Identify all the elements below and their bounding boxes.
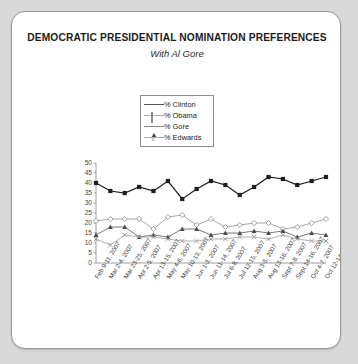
chart-legend: % Clinton % Obama % Gore × % Edwards: [140, 95, 214, 147]
page-subtitle: With Al Gore: [12, 48, 341, 59]
filled-triangle-marker-icon: [144, 121, 164, 132]
series-obama: [93, 212, 328, 231]
svg-text:10: 10: [85, 239, 93, 246]
svg-text:25: 25: [85, 209, 93, 216]
cross-x-marker-icon: ×: [144, 132, 164, 143]
x-axis-labels: Feb 9-11, 2007Mar 2-4, 2007Mar 23-25, 20…: [12, 274, 341, 344]
legend-item-obama: % Obama: [144, 110, 209, 121]
svg-text:45: 45: [85, 169, 93, 176]
legend-label-obama: % Obama: [164, 111, 197, 120]
legend-item-edwards: × % Edwards: [144, 132, 209, 143]
page-title: DEMOCRATIC PRESIDENTIAL NOMINATION PREFE…: [12, 32, 341, 43]
svg-text:50: 50: [85, 160, 93, 166]
series-group: [93, 175, 328, 247]
open-diamond-marker-icon: [144, 110, 164, 121]
svg-text:30: 30: [85, 199, 93, 206]
legend-item-gore: % Gore: [144, 121, 209, 132]
svg-text:35: 35: [85, 189, 93, 196]
svg-text:5: 5: [88, 249, 92, 256]
svg-text:20: 20: [85, 219, 93, 226]
svg-text:40: 40: [85, 179, 93, 186]
legend-item-clinton: % Clinton: [144, 99, 209, 110]
legend-label-gore: % Gore: [164, 122, 189, 131]
svg-text:0: 0: [88, 259, 92, 266]
legend-label-clinton: % Clinton: [164, 100, 196, 109]
svg-text:15: 15: [85, 229, 93, 236]
legend-label-edwards: % Edwards: [164, 133, 201, 142]
chart-card: DEMOCRATIC PRESIDENTIAL NOMINATION PREFE…: [11, 11, 341, 349]
series-clinton: [94, 175, 328, 201]
filled-square-marker-icon: [144, 99, 164, 110]
